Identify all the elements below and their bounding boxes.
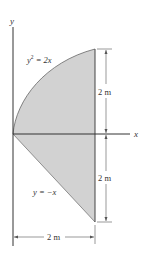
dim-lower-height-label: 2 m xyxy=(98,173,111,183)
arrow-up-mid xyxy=(105,135,108,139)
dim-width-label: 2 m xyxy=(47,232,60,242)
arrow-down-bottom xyxy=(105,217,108,221)
dim-upper-height-label: 2 m xyxy=(98,87,111,97)
parabola-label: y2 = 2x xyxy=(26,54,52,65)
arrow-right-width xyxy=(90,236,94,239)
x-axis-label: x xyxy=(133,129,138,139)
line-label: y = −x xyxy=(32,187,56,197)
y-axis-label: y xyxy=(9,16,14,26)
arrow-left-width xyxy=(14,236,18,239)
arrow-down-mid xyxy=(105,129,108,133)
arrow-up-top xyxy=(105,50,108,54)
area-diagram: y x y2 = 2x y = −x 2 m 2 m 2 m xyxy=(0,0,149,260)
